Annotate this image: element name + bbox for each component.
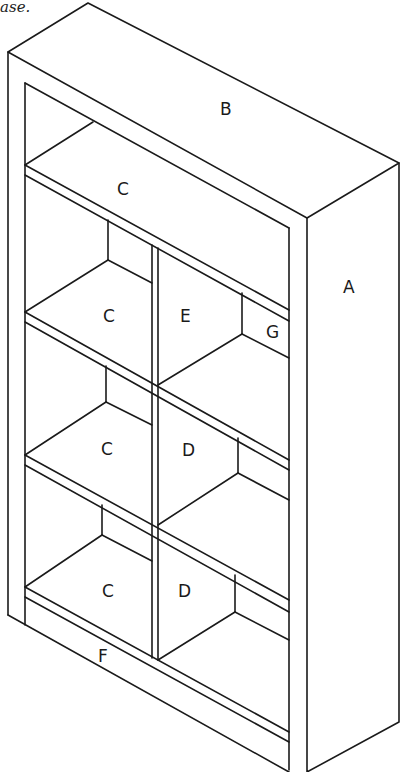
lower-shelf-bottom	[25, 465, 289, 612]
top-shelf-back	[25, 122, 93, 165]
upper-left-shelf	[25, 260, 108, 312]
label-c-lower: C	[102, 581, 114, 601]
lower-right-back-diag	[235, 612, 289, 640]
lower-left-back-diag	[102, 535, 152, 561]
label-d-lower: D	[178, 581, 191, 601]
side-panel-right	[307, 163, 399, 772]
middle-shelf-bottom	[25, 322, 289, 470]
label-e: E	[180, 306, 191, 326]
middle-right-back-diag	[238, 473, 289, 500]
bookcase-diagram: B A C C E G C D C D F	[0, 0, 404, 772]
front-bottom-outer	[8, 615, 289, 772]
top-shelf-front-bottom	[25, 175, 289, 321]
top-panel	[8, 3, 399, 218]
middle-left-back-diag	[106, 402, 152, 425]
middle-shelf-top	[25, 312, 289, 460]
label-g: G	[266, 322, 279, 342]
label-d-middle: D	[182, 440, 195, 460]
lower-shelf-top	[25, 455, 289, 600]
label-a: A	[343, 277, 355, 297]
upper-left-back-diag	[108, 260, 152, 283]
lower-left-shelf	[25, 535, 102, 587]
label-f: F	[98, 646, 108, 666]
label-b: B	[220, 99, 232, 119]
label-c-middle: C	[101, 439, 113, 459]
front-top-inner	[25, 83, 289, 228]
label-c-top: C	[117, 179, 129, 199]
bottom-shelf-top	[25, 587, 289, 732]
upper-right-shelf	[158, 334, 242, 385]
middle-left-shelf	[25, 402, 106, 455]
label-c-upper: C	[103, 306, 115, 326]
lower-right-shelf	[158, 612, 235, 660]
middle-right-shelf	[158, 473, 238, 525]
